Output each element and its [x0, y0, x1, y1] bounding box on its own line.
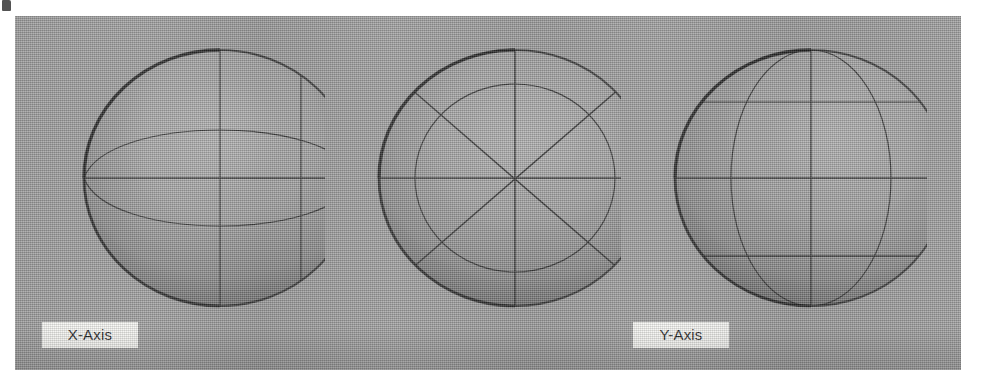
figure-root: X-Axis [0, 0, 987, 385]
sphere-x-axis-graphic [15, 46, 325, 326]
sphere-cell-z-axis: Z-Axis [607, 16, 927, 370]
scan-artifact-speck [2, 0, 11, 11]
sphere-cell-x-axis: X-Axis [15, 16, 325, 370]
figure-panel: X-Axis [15, 16, 961, 370]
sphere-cell-y-axis: Y-Axis [311, 16, 621, 370]
sphere-z-axis-graphic [607, 46, 927, 326]
axis-label-x: X-Axis [42, 322, 138, 348]
sphere-y-axis-graphic [311, 46, 621, 326]
